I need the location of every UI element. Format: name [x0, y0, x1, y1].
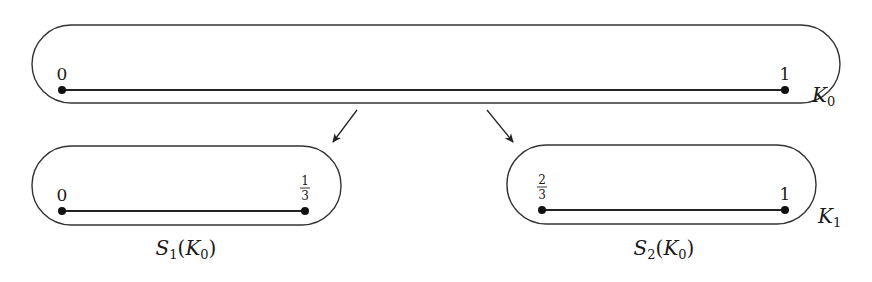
s1-group: 0 1 3 S1(K0) [32, 146, 341, 262]
s2-caption-arg-sub: 0 [678, 247, 686, 262]
s1-left-endpoint [58, 207, 66, 215]
s2-left-endpoint [538, 206, 546, 214]
s1-caption-fn: S [156, 236, 170, 260]
k0-right-endpoint [781, 86, 789, 94]
s1-caption-close: ) [209, 236, 217, 260]
s2-caption-close: ) [687, 236, 695, 260]
s2-group: 2 3 1 K1 S2(K0) [507, 145, 841, 262]
s2-left-denominator: 3 [538, 188, 546, 202]
s2-caption-open: ( [656, 236, 664, 260]
arrow-to-s2 [487, 110, 513, 142]
s2-caption-fn: S [634, 236, 648, 260]
k1-set-label-base: K [817, 204, 834, 228]
s1-caption-open: ( [178, 236, 186, 260]
s1-caption-arg-sub: 0 [200, 247, 208, 262]
s2-left-fraction: 2 3 [537, 173, 547, 202]
s2-caption-fn-sub: 2 [647, 247, 655, 262]
k0-left-endpoint [58, 86, 66, 94]
s1-capsule [32, 146, 341, 225]
k0-set-label-base: K [811, 83, 828, 107]
k0-capsule [32, 25, 840, 103]
s2-caption-arg: K [662, 236, 679, 260]
k0-set-label-sub: 0 [827, 94, 835, 109]
s1-right-fraction: 1 3 [300, 174, 310, 203]
k0-group: 0 1 K0 [32, 25, 840, 109]
s2-right-label: 1 [780, 184, 791, 204]
s2-right-endpoint [781, 206, 789, 214]
k1-set-label: K1 [817, 204, 841, 230]
s1-caption-fn-sub: 1 [169, 247, 177, 262]
s2-capsule [507, 145, 816, 224]
s1-right-numerator: 1 [301, 174, 309, 188]
cantor-iteration-diagram: 0 1 K0 0 1 3 S1(K0) 2 3 1 [0, 0, 872, 282]
s1-caption: S1(K0) [156, 236, 217, 262]
k1-set-label-sub: 1 [833, 215, 841, 230]
k0-right-label: 1 [780, 64, 791, 84]
s2-left-numerator: 2 [538, 173, 546, 187]
s1-caption-arg: K [184, 236, 201, 260]
k0-set-label: K0 [811, 83, 835, 109]
s1-right-endpoint [301, 207, 309, 215]
s2-caption: S2(K0) [634, 236, 695, 262]
s1-right-denominator: 3 [301, 189, 309, 203]
k0-left-label: 0 [57, 64, 68, 84]
arrow-to-s1 [333, 110, 357, 142]
s1-left-label: 0 [57, 185, 68, 205]
